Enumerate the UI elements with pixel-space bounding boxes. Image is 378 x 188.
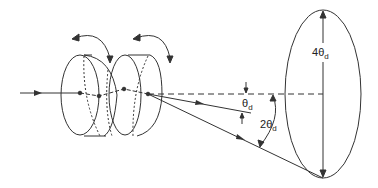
arrowhead-icon [34,90,42,96]
rotation-arrow-2 [133,34,173,63]
input-beam [20,90,80,96]
refracted-beam [78,87,150,98]
risley-prism-diagram: θd 2θd 4θd [0,0,378,188]
rotation-arrow-1 [72,34,113,63]
deflected-ray-2theta [148,94,323,178]
label-theta-d: θd [242,97,253,112]
label-4theta-d: 4θd [312,46,329,61]
deflected-ray-theta [148,94,251,113]
